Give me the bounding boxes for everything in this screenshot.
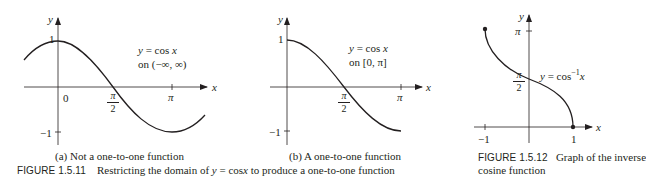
y-tick-label-pi-over-2: π 2 <box>513 70 525 93</box>
figure-caption-1-5-11: FIGURE 1.5.11 Restricting the domain of … <box>17 164 395 177</box>
figure-number: FIGURE 1.5.12 <box>478 152 548 163</box>
x-tick-label-pi: π <box>397 91 403 103</box>
x-axis-label: x <box>426 81 431 93</box>
equation-label: y = cos x <box>349 42 388 54</box>
y-axis-label: y <box>48 13 53 25</box>
x-tick-label-pi-over-2: π 2 <box>107 91 119 114</box>
y-tick-label-1: 1 <box>49 33 55 45</box>
y-tick-label-1: 1 <box>278 33 284 45</box>
endpoint-dot-right <box>571 125 575 129</box>
y-tick-label-neg1: −1 <box>40 127 52 139</box>
domain-label: on (−∞, ∞) <box>138 58 186 70</box>
subcaption-b: (b) A one-to-one function <box>289 150 401 163</box>
y-axis-label: y <box>519 10 524 22</box>
equation-label: y = cos−1x <box>540 67 585 82</box>
x-axis-label: x <box>212 81 217 93</box>
y-tick-label-pi: π <box>515 25 521 37</box>
endpoint-dot-left <box>483 27 487 31</box>
figure-number: FIGURE 1.5.11 <box>17 165 86 176</box>
subcaption-a: (a) Not a one-to-one function <box>55 150 184 163</box>
x-tick-label-neg1: −1 <box>478 133 490 145</box>
x-tick-label-pi-over-2: π 2 <box>338 91 350 114</box>
origin-label: 0 <box>63 92 69 104</box>
panel-b-axes <box>270 18 422 145</box>
x-tick-label-pi: π <box>168 91 174 103</box>
domain-label: on [0, π] <box>349 56 387 68</box>
y-tick-label-neg1: −1 <box>269 126 281 138</box>
x-axis-label: x <box>596 121 601 133</box>
figure-caption-1-5-12-line2: cosine function <box>478 164 546 177</box>
equation-label: y = cos x <box>138 44 177 56</box>
y-axis-label: y <box>278 13 283 25</box>
figure-caption-1-5-12-line1: FIGURE 1.5.12 Graph of the inverse <box>478 151 646 164</box>
cosine-curve-full <box>24 41 205 132</box>
x-tick-label-1: 1 <box>571 133 577 145</box>
